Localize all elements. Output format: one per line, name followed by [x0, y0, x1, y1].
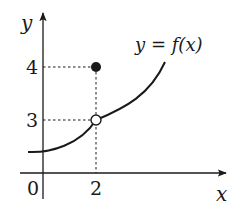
origin-label: 0	[27, 177, 39, 199]
function-graph: y x 0 2 4 3 y = f(x)	[0, 0, 239, 211]
curve-label: y = f(x)	[134, 34, 203, 55]
filled-point	[91, 62, 101, 72]
open-point	[91, 115, 101, 125]
y-axis-label: y	[20, 11, 33, 35]
x-tick-2: 2	[90, 177, 102, 199]
x-axis-label: x	[216, 182, 227, 206]
y-tick-4: 4	[26, 56, 38, 78]
y-tick-3: 3	[26, 109, 38, 131]
